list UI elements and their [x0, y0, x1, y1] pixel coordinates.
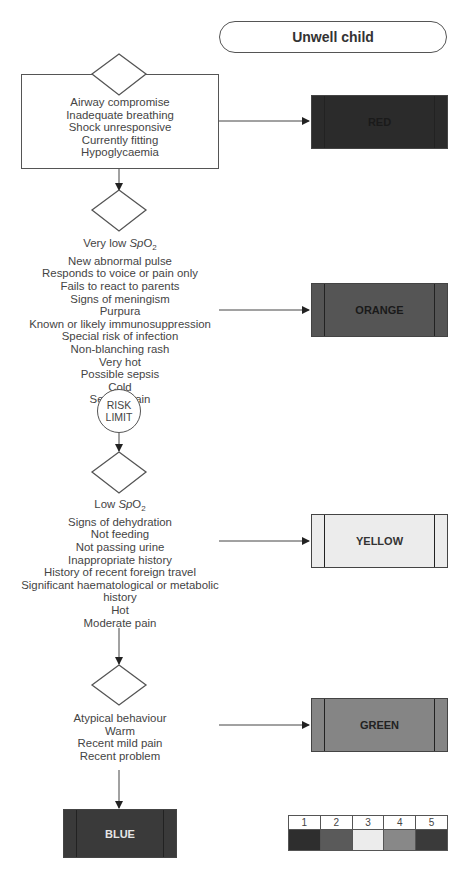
outcome-blue: BLUE: [63, 809, 177, 858]
start-terminal: Unwell child: [219, 21, 447, 53]
outcome-label: BLUE: [105, 828, 135, 840]
criteria-list-green: Atypical behaviour Warm Recent mild pain…: [21, 712, 219, 762]
criterion: Low SpO2: [21, 498, 219, 516]
criterion: Shock unresponsive: [21, 121, 219, 134]
criterion: Recent mild pain: [21, 737, 219, 750]
legend-swatch: [321, 830, 353, 850]
criterion: Possible sepsis: [21, 368, 219, 381]
criterion: Significant haematological or metabolic: [21, 579, 219, 592]
risk-limit-line1: RISK: [107, 399, 132, 411]
legend-swatches: [289, 830, 447, 850]
legend-number: 4: [384, 816, 416, 830]
risk-limit-line2: LIMIT: [106, 411, 133, 423]
criterion: Not feeding: [21, 528, 219, 541]
criterion: New abnormal pulse: [21, 255, 219, 268]
outcome-orange: ORANGE: [311, 283, 448, 337]
legend-number: 5: [416, 816, 447, 830]
legend-number: 3: [353, 816, 385, 830]
legend-swatch: [416, 830, 447, 850]
legend-number: 2: [321, 816, 353, 830]
risk-limit-node: RISK LIMIT: [97, 389, 141, 433]
criterion: Hypoglycaemia: [21, 146, 219, 159]
legend-swatch: [384, 830, 416, 850]
criterion: Atypical behaviour: [21, 712, 219, 725]
outcome-red: RED: [311, 95, 448, 149]
outcome-label: YELLOW: [356, 535, 403, 547]
outcome-yellow: YELLOW: [311, 514, 448, 568]
outcome-green: GREEN: [311, 698, 448, 752]
criterion: history: [21, 591, 219, 604]
criterion: Signs of dehydration: [21, 516, 219, 529]
criterion: Airway compromise: [21, 96, 219, 109]
criterion: Inappropriate history: [21, 554, 219, 567]
outcome-label: ORANGE: [355, 304, 403, 316]
criteria-list-orange: Very low SpO2 New abnormal pulse Respond…: [21, 237, 219, 406]
criterion: Moderate pain: [21, 617, 219, 630]
criterion: History of recent foreign travel: [21, 566, 219, 579]
criterion: Signs of meningism: [21, 293, 219, 306]
criterion: Purpura: [21, 305, 219, 318]
criterion: Non-blanching rash: [21, 343, 219, 356]
legend-number: 1: [289, 816, 321, 830]
outcome-label: RED: [368, 116, 391, 128]
outcome-label: GREEN: [360, 719, 399, 731]
criterion: Responds to voice or pain only: [21, 267, 219, 280]
criterion: Very hot: [21, 356, 219, 369]
criterion: Recent problem: [21, 750, 219, 763]
legend-swatch: [289, 830, 321, 850]
criteria-list-yellow: Low SpO2 Signs of dehydration Not feedin…: [21, 498, 219, 629]
criterion: Not passing urine: [21, 541, 219, 554]
color-legend: 1 2 3 4 5: [288, 815, 448, 851]
criterion: Currently fitting: [21, 134, 219, 147]
criterion: Special risk of infection: [21, 330, 219, 343]
criterion: Warm: [21, 725, 219, 738]
criterion: Known or likely immunosuppression: [21, 318, 219, 331]
legend-numbers: 1 2 3 4 5: [289, 816, 447, 830]
criterion: Fails to react to parents: [21, 280, 219, 293]
criterion: Hot: [21, 604, 219, 617]
criterion: Inadequate breathing: [21, 109, 219, 122]
legend-swatch: [353, 830, 385, 850]
criteria-list-red: Airway compromise Inadequate breathing S…: [21, 96, 219, 159]
criterion: Very low SpO2: [21, 237, 219, 255]
